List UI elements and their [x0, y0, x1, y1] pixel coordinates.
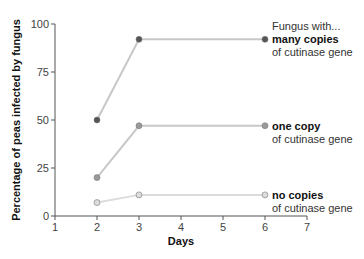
series-line [97, 195, 265, 203]
y-tick-label: 0 [43, 210, 49, 222]
x-axis-title: Days [168, 235, 194, 247]
line-chart: 0255075100 1234567 Percentage of peas in… [0, 0, 364, 259]
legend-label: one copy [272, 120, 321, 132]
series-line [97, 39, 265, 120]
legend: many copiesof cutinase geneone copyof cu… [272, 33, 353, 214]
legend-sublabel: of cutinase gene [272, 46, 353, 58]
legend-label: many copies [272, 33, 339, 45]
data-point [136, 192, 142, 198]
data-point [262, 192, 268, 198]
data-point [94, 200, 100, 206]
x-tick-label: 3 [136, 221, 142, 233]
x-ticks: 1234567 [52, 216, 310, 233]
y-tick-label: 25 [37, 162, 49, 174]
data-point [94, 117, 100, 123]
series-markers [94, 36, 268, 205]
data-point [136, 123, 142, 129]
y-ticks: 0255075100 [31, 18, 55, 222]
series-line [97, 126, 265, 178]
legend-heading: Fungus with... [272, 20, 340, 32]
y-tick-label: 100 [31, 18, 49, 30]
data-point [94, 175, 100, 181]
data-point [136, 36, 142, 42]
y-tick-label: 50 [37, 114, 49, 126]
legend-sublabel: of cutinase gene [272, 202, 353, 214]
data-point [262, 36, 268, 42]
data-point [262, 123, 268, 129]
x-tick-label: 4 [178, 221, 184, 233]
y-tick-label: 75 [37, 66, 49, 78]
legend-sublabel: of cutinase gene [272, 133, 353, 145]
x-tick-label: 1 [52, 221, 58, 233]
x-tick-label: 6 [262, 221, 268, 233]
x-tick-label: 7 [304, 221, 310, 233]
x-tick-label: 2 [94, 221, 100, 233]
legend-label: no copies [272, 189, 323, 201]
x-tick-label: 5 [220, 221, 226, 233]
y-axis-title: Percentage of peas infected by fungus [10, 19, 22, 221]
series-lines [97, 39, 265, 202]
